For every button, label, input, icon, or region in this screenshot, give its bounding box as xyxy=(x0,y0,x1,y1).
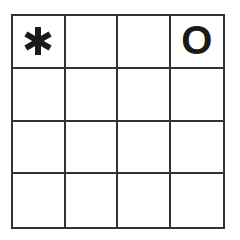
cell-r3c0[interactable] xyxy=(13,174,66,227)
cell-r2c3[interactable] xyxy=(171,122,224,175)
cell-r0c3[interactable]: O xyxy=(171,16,224,69)
cell-r2c2[interactable] xyxy=(118,122,171,175)
cell-r2c0[interactable] xyxy=(13,122,66,175)
cell-r0c2[interactable] xyxy=(118,16,171,69)
cell-r1c3[interactable] xyxy=(171,69,224,122)
cell-r3c3[interactable] xyxy=(171,174,224,227)
cell-r0c0[interactable] xyxy=(13,16,66,69)
asterisk-icon xyxy=(22,25,54,57)
cell-r1c1[interactable] xyxy=(66,69,119,122)
game-board: O xyxy=(11,14,225,229)
cell-r1c0[interactable] xyxy=(13,69,66,122)
cell-r0c1[interactable] xyxy=(66,16,119,69)
o-mark: O xyxy=(181,20,212,60)
cell-r3c1[interactable] xyxy=(66,174,119,227)
cell-r2c1[interactable] xyxy=(66,122,119,175)
cell-r1c2[interactable] xyxy=(118,69,171,122)
cell-r3c2[interactable] xyxy=(118,174,171,227)
